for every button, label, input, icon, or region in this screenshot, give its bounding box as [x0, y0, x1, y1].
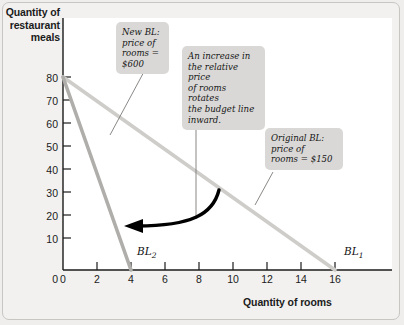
- x-axis-title: Quantity of rooms: [243, 296, 332, 308]
- callout-original-line-2: price of: [271, 144, 337, 155]
- callout-original-line-1: Original BL:: [271, 133, 337, 144]
- callout-new-bl-line-4: $600: [122, 59, 163, 70]
- callout-original-line-3: rooms = $150: [271, 154, 337, 165]
- callout-new-bl-line-1: New BL:: [122, 27, 163, 38]
- callout-rotation-line-4: the budget line: [188, 104, 259, 115]
- bl2-label-sub: 2: [152, 251, 157, 260]
- callout-rotation-line-2: the relative price: [188, 62, 259, 83]
- callout-new-bl-line-2: price of: [122, 38, 163, 49]
- callout-rotation-line-3: of rooms rotates: [188, 83, 259, 104]
- callout-new-bl: New BL: price of rooms = $600: [116, 22, 169, 74]
- budget-line-figure: Quantity of restaurant meals 80 70 60 50…: [0, 0, 404, 325]
- bl1-label-base: BL: [344, 245, 359, 257]
- bl2-label: BL2: [137, 245, 156, 260]
- callout-rotation-line-1: An increase in: [188, 51, 259, 62]
- bl2-label-base: BL: [137, 245, 152, 257]
- callout-new-bl-line-3: rooms =: [122, 48, 163, 59]
- callout-rotation-note: An increase in the relative price of roo…: [182, 46, 265, 130]
- bl1-label: BL1: [344, 245, 363, 260]
- callout-original-bl: Original BL: price of rooms = $150: [265, 128, 343, 170]
- callout-rotation-line-5: inward.: [188, 115, 259, 126]
- bl1-label-sub: 1: [359, 251, 364, 260]
